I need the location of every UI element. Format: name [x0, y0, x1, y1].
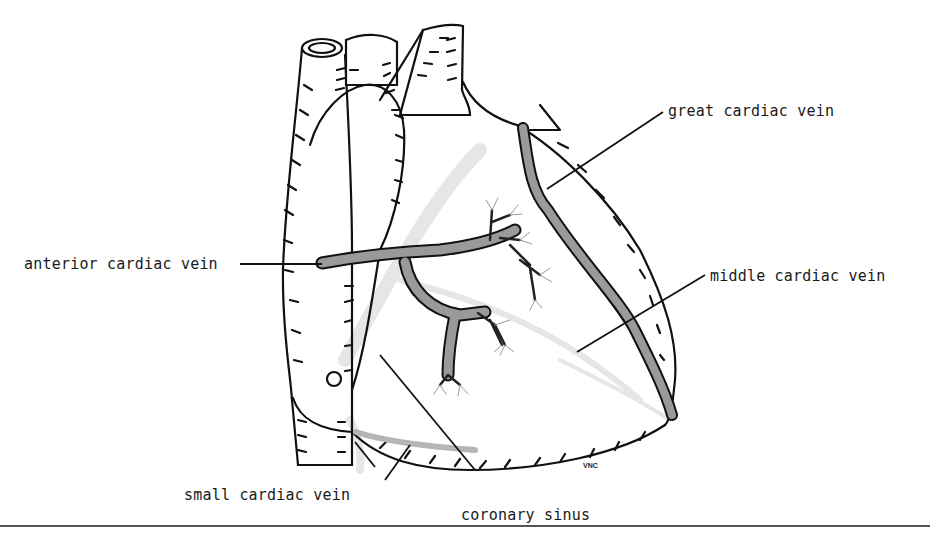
- label-small-cardiac-vein: small cardiac vein: [184, 486, 350, 504]
- artist-signature: VNC: [583, 462, 598, 469]
- label-anterior-cardiac-vein: anterior cardiac vein: [24, 255, 218, 273]
- label-great-cardiac-vein: great cardiac vein: [668, 102, 834, 120]
- label-coronary-sinus: coronary sinus: [461, 506, 590, 524]
- label-middle-cardiac-vein: middle cardiac vein: [710, 267, 885, 285]
- heart-body: [284, 30, 675, 470]
- superior-vena-cava: [283, 39, 352, 465]
- anterior-cardiac-vein: [322, 198, 552, 396]
- bottom-rule: [0, 525, 930, 527]
